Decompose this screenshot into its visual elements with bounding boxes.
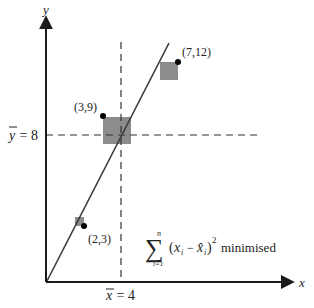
svg-text:y: y xyxy=(7,128,16,143)
regression-diagram: y x (3,9) (7,12) (2,3) y = 8 x = 4 n ∑ i… xyxy=(0,0,314,308)
svg-text:i: i xyxy=(204,248,206,257)
svg-text:−: − xyxy=(184,241,197,255)
residual-square-3-9 xyxy=(103,117,131,144)
svg-text:i=1: i=1 xyxy=(153,260,163,268)
svg-text:x̂: x̂ xyxy=(196,240,204,255)
point-label-3-9: (3,9) xyxy=(74,100,97,114)
sum-of-squares-formula: n ∑ i=1 ( x i − x̂ i ) 2 minimised xyxy=(145,229,276,268)
svg-text:= 8: = 8 xyxy=(16,128,38,143)
point-label-7-12: (7,12) xyxy=(182,45,211,59)
data-point-2-3 xyxy=(81,223,87,229)
x-axis-label: x xyxy=(298,275,305,290)
svg-text:x: x xyxy=(105,288,113,303)
svg-text:x: x xyxy=(173,240,181,255)
svg-text:∑: ∑ xyxy=(145,234,164,263)
data-point-3-9 xyxy=(100,113,106,119)
data-point-7-12 xyxy=(175,59,181,65)
point-label-2-3: (2,3) xyxy=(88,232,111,246)
x-mean-label: x = 4 xyxy=(105,288,135,303)
residual-square-7-12 xyxy=(160,62,178,80)
y-axis-label: y xyxy=(41,2,49,17)
svg-text:= 4: = 4 xyxy=(113,288,135,303)
svg-text:2: 2 xyxy=(212,235,217,245)
y-mean-label: y = 8 xyxy=(7,127,38,143)
svg-text:i: i xyxy=(181,248,183,257)
svg-text:minimised: minimised xyxy=(221,240,276,255)
